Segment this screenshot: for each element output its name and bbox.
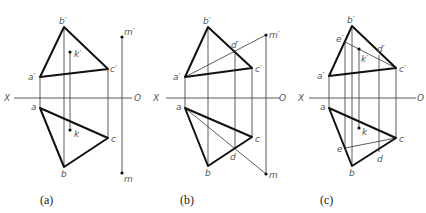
label-k-prime: k′ xyxy=(74,49,81,59)
point-k-prime xyxy=(68,50,71,53)
label-k: k xyxy=(362,127,368,137)
axis-label-x: X xyxy=(297,93,305,103)
point-k xyxy=(357,126,360,129)
axis-label-o: O xyxy=(134,93,141,103)
label-d-prime: d′ xyxy=(231,40,239,50)
label-e-prime: e′ xyxy=(336,34,344,44)
triangle-top-view xyxy=(329,108,396,166)
label-m: m xyxy=(124,174,133,184)
point-m xyxy=(264,172,267,175)
label-e: e xyxy=(337,144,343,154)
triangle-front-view xyxy=(185,27,252,77)
label-b-prime: b′ xyxy=(203,16,211,26)
axis-label-o: O xyxy=(279,93,286,103)
panel-b: X O b′ a′ c′ d′ m′ a b c d m (b) xyxy=(152,16,286,207)
label-k-prime: k′ xyxy=(361,54,368,64)
label-m: m xyxy=(269,170,278,180)
label-c-prime: c′ xyxy=(399,64,406,74)
label-c: c xyxy=(111,134,116,144)
label-a: a xyxy=(320,102,326,112)
label-c: c xyxy=(255,134,260,144)
point-k xyxy=(68,128,71,131)
label-c: c xyxy=(399,134,404,144)
axis-label-o: O xyxy=(417,93,424,103)
aux-line-e-prime-c-prime xyxy=(345,42,396,68)
label-a-prime: a′ xyxy=(317,71,325,81)
panel-a: X O b′ a′ c′ k′ m′ a b c k m (a) xyxy=(3,16,141,207)
label-b-prime: b′ xyxy=(347,15,355,25)
label-a-prime: a′ xyxy=(173,72,181,82)
label-k: k xyxy=(74,129,80,139)
caption-b: (b) xyxy=(180,193,194,207)
label-b-prime: b′ xyxy=(59,16,67,26)
label-d-prime: d′ xyxy=(377,44,385,54)
label-d: d xyxy=(230,152,236,162)
label-a: a xyxy=(176,102,182,112)
point-k-prime xyxy=(357,47,360,50)
descriptive-geometry-figure: X O b′ a′ c′ k′ m′ a b c k m (a) X O b′ … xyxy=(0,0,426,213)
point-m-prime xyxy=(264,33,267,36)
label-b: b xyxy=(205,168,211,178)
label-b: b xyxy=(61,169,67,179)
caption-c: (c) xyxy=(320,193,333,207)
axis-label-x: X xyxy=(152,93,160,103)
label-c-prime: c′ xyxy=(110,64,117,74)
label-d: d xyxy=(377,154,383,164)
panel-c: X O b′ e′ a′ c′ d′ k′ a b c d e k (c) xyxy=(297,15,424,207)
caption-a: (a) xyxy=(40,193,53,207)
label-a: a xyxy=(31,102,37,112)
label-c-prime: c′ xyxy=(255,64,262,74)
label-m-prime: m′ xyxy=(269,30,280,40)
label-a-prime: a′ xyxy=(28,72,36,82)
label-b: b xyxy=(349,168,355,178)
label-m-prime: m′ xyxy=(124,27,135,37)
axis-label-x: X xyxy=(3,93,11,103)
